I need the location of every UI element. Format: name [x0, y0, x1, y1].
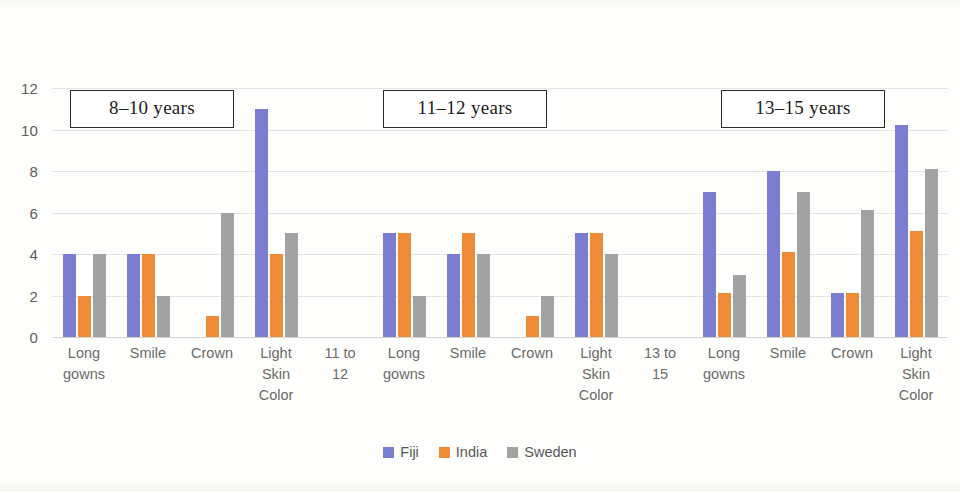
legend-label-sweden: Sweden: [524, 444, 576, 460]
bar-sweden-long-gowns-p2: [733, 275, 746, 337]
x-tick-label-0: Longgowns: [52, 343, 116, 385]
x-tick-label-12: Crown: [820, 343, 884, 364]
bar-india-light-skin-color-p0: [270, 254, 283, 337]
x-tick-label-1: Smile: [116, 343, 180, 364]
x-tick-label-13: LightSkinColor: [884, 343, 948, 406]
bar-sweden-long-gowns-p0: [93, 254, 106, 337]
x-tick-label-10: Longgowns: [692, 343, 756, 385]
gridline-0: [52, 337, 948, 338]
bar-chart: 121086420 LonggownsSmileCrownLightSkinCo…: [0, 0, 960, 493]
bar-india-crown-p2: [846, 293, 859, 337]
panel-title-8-10-years: 8–10 years: [70, 90, 234, 128]
x-tick-label-6: Smile: [436, 343, 500, 364]
bar-fiji-light-skin-color-p1: [575, 233, 588, 337]
bar-india-light-skin-color-p1: [590, 233, 603, 337]
bar-sweden-light-skin-color-p2: [925, 169, 938, 337]
bar-sweden-long-gowns-p1: [413, 296, 426, 338]
bar-fiji-smile-p1: [447, 254, 460, 337]
x-tick-label-2: Crown: [180, 343, 244, 364]
bar-india-smile-p1: [462, 233, 475, 337]
legend-label-india: India: [456, 444, 487, 460]
bar-india-crown-p0: [206, 316, 219, 337]
bar-sweden-smile-p2: [797, 192, 810, 337]
legend-item-sweden[interactable]: Sweden: [507, 444, 576, 460]
bar-fiji-long-gowns-p2: [703, 192, 716, 337]
bar-sweden-crown-p1: [541, 296, 554, 338]
bar-india-light-skin-color-p2: [910, 231, 923, 337]
y-tick-label-2: 2: [29, 287, 38, 304]
x-tick-label-3: LightSkinColor: [244, 343, 308, 406]
y-tick-label-8: 8: [29, 163, 38, 180]
legend-swatch-fiji-icon: [383, 447, 394, 458]
bar-india-long-gowns-p0: [78, 296, 91, 338]
bar-fiji-long-gowns-p1: [383, 233, 396, 337]
bar-sweden-light-skin-color-p1: [605, 254, 618, 337]
bar-fiji-smile-p2: [767, 171, 780, 337]
bar-india-smile-p2: [782, 252, 795, 337]
panel-title-11-12-years: 11–12 years: [383, 90, 547, 128]
bar-sweden-light-skin-color-p0: [285, 233, 298, 337]
bar-sweden-smile-p0: [157, 296, 170, 338]
y-tick-label-12: 12: [21, 80, 38, 97]
x-tick-label-4: 11 to12: [308, 343, 372, 385]
bar-fiji-light-skin-color-p2: [895, 125, 908, 337]
bar-fiji-light-skin-color-p0: [255, 109, 268, 337]
x-tick-label-8: LightSkinColor: [564, 343, 628, 406]
bar-india-long-gowns-p2: [718, 293, 731, 337]
panel-title-13-15-years: 13–15 years: [721, 90, 885, 128]
legend-item-india[interactable]: India: [439, 444, 487, 460]
scan-artifact-top: [0, 0, 960, 10]
bar-fiji-crown-p2: [831, 293, 844, 337]
legend-label-fiji: Fiji: [400, 444, 419, 460]
legend-swatch-sweden-icon: [507, 447, 518, 458]
y-tick-label-0: 0: [29, 329, 38, 346]
x-tick-label-9: 13 to15: [628, 343, 692, 385]
y-tick-label-4: 4: [29, 246, 38, 263]
x-tick-label-7: Crown: [500, 343, 564, 364]
x-tick-label-5: Longgowns: [372, 343, 436, 385]
legend-item-fiji[interactable]: Fiji: [383, 444, 419, 460]
scan-artifact-bottom: [0, 481, 960, 491]
legend: FijiIndiaSweden: [0, 444, 960, 460]
bar-india-smile-p0: [142, 254, 155, 337]
bar-sweden-smile-p1: [477, 254, 490, 337]
bar-sweden-crown-p2: [861, 210, 874, 337]
y-tick-label-6: 6: [29, 204, 38, 221]
bar-fiji-smile-p0: [127, 254, 140, 337]
y-axis-tick-labels: 121086420: [0, 88, 46, 337]
bar-india-crown-p1: [526, 316, 539, 337]
x-axis-tick-labels: LonggownsSmileCrownLightSkinColor11 to12…: [52, 343, 948, 435]
bar-fiji-long-gowns-p0: [63, 254, 76, 337]
bar-sweden-crown-p0: [221, 213, 234, 338]
y-tick-label-10: 10: [21, 121, 38, 138]
bar-india-long-gowns-p1: [398, 233, 411, 337]
x-tick-label-11: Smile: [756, 343, 820, 364]
legend-swatch-india-icon: [439, 447, 450, 458]
